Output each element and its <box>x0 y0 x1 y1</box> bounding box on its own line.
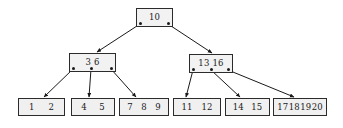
root-pointer-right-dot <box>167 22 170 25</box>
edge-root-to-right-internal <box>168 24 212 53</box>
internal-right-key-0: 13 <box>197 59 211 68</box>
leaf-node-6: 17 18 19 20 <box>273 98 327 116</box>
internal-right-key-1: 16 <box>211 59 225 68</box>
leaf-1-key-1: 2 <box>48 103 54 112</box>
edge-right-internal-to-leaf-5 <box>211 70 240 97</box>
leaf-node-5-keys: 14 15 <box>226 99 269 115</box>
internal-node-left-keys: 3 6 <box>70 54 115 71</box>
left-internal-pointer-2-dot <box>90 67 93 70</box>
leaf-6-key-2: 19 <box>300 103 311 112</box>
right-internal-pointer-2-dot <box>210 68 213 71</box>
edge-root-to-left-internal <box>97 24 140 52</box>
left-internal-pointer-1-dot <box>72 67 75 70</box>
b-plus-tree-figure: 10 3 6 13 16 1 2 4 5 7 8 9 <box>0 0 343 128</box>
leaf-6-key-3: 20 <box>312 103 323 112</box>
edge-right-internal-to-leaf-6 <box>228 70 294 97</box>
root-pointer-left-dot <box>139 22 142 25</box>
left-internal-pointer-3-dot <box>110 67 113 70</box>
right-internal-pointer-3-dot <box>227 68 230 71</box>
leaf-node-2-keys: 4 5 <box>72 99 114 115</box>
internal-left-key-0: 3 <box>84 58 93 67</box>
leaf-node-6-keys: 17 18 19 20 <box>274 99 326 115</box>
leaf-node-5: 14 15 <box>225 98 270 116</box>
leaf-node-1-keys: 1 2 <box>19 99 64 115</box>
leaf-4-key-0: 11 <box>181 103 192 112</box>
leaf-3-key-2: 9 <box>155 103 161 112</box>
right-internal-pointer-1-dot <box>192 68 195 71</box>
leaf-node-4: 11 12 <box>173 98 221 116</box>
root-key-0: 10 <box>147 13 161 22</box>
leaf-node-3-keys: 7 8 9 <box>120 99 168 115</box>
leaf-node-1: 1 2 <box>18 98 65 116</box>
leaf-node-4-keys: 11 12 <box>174 99 220 115</box>
leaf-3-key-0: 7 <box>127 103 133 112</box>
leaf-2-key-0: 4 <box>81 103 87 112</box>
leaf-5-key-1: 15 <box>251 103 262 112</box>
leaf-6-key-0: 17 <box>277 103 288 112</box>
leaf-2-key-1: 5 <box>99 103 105 112</box>
internal-left-key-1: 6 <box>93 58 102 67</box>
leaf-5-key-0: 14 <box>233 103 244 112</box>
leaf-3-key-1: 8 <box>141 103 147 112</box>
edge-left-internal-to-leaf-1 <box>44 69 73 97</box>
leaf-1-key-0: 1 <box>29 103 35 112</box>
leaf-4-key-1: 12 <box>201 103 212 112</box>
edge-left-internal-to-leaf-3 <box>111 69 136 97</box>
edge-right-internal-to-leaf-4 <box>186 70 193 97</box>
internal-node-left: 3 6 <box>69 53 116 72</box>
leaf-6-key-1: 18 <box>289 103 300 112</box>
leaf-node-2: 4 5 <box>71 98 115 116</box>
leaf-node-3: 7 8 9 <box>119 98 169 116</box>
edge-left-internal-to-leaf-2 <box>89 69 91 97</box>
